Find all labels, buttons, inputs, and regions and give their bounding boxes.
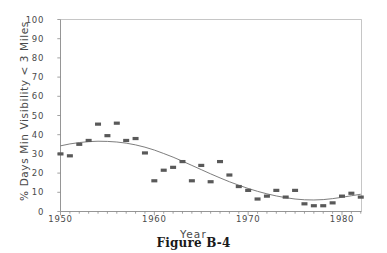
data-point-1980 [339, 195, 345, 198]
figure-b-4: % Days Min Visibility < 3 Miles 01020304… [0, 0, 387, 253]
trend-line [61, 141, 361, 200]
data-point-1971 [255, 197, 261, 200]
figure-caption: Figure B-4 [0, 236, 387, 250]
x-axis-tick-labels: 1950196019701980 [0, 214, 387, 228]
data-point-1975 [292, 189, 298, 192]
x-tick-1970: 1970 [236, 214, 260, 224]
data-point-1972 [264, 195, 270, 198]
data-point-1958 [133, 137, 139, 140]
data-point-1952 [76, 143, 82, 146]
data-point-1965 [198, 164, 204, 167]
data-point-1978 [320, 204, 326, 207]
data-point-1974 [283, 196, 289, 199]
data-point-1982 [358, 196, 364, 199]
data-point-1976 [301, 202, 307, 205]
data-point-1957 [123, 139, 129, 142]
data-point-1955 [104, 134, 110, 137]
data-point-1968 [226, 173, 232, 176]
data-point-1956 [114, 122, 120, 125]
data-markers [58, 122, 364, 208]
data-point-1969 [236, 185, 242, 188]
data-point-1959 [142, 151, 148, 154]
data-point-1979 [330, 201, 336, 204]
data-point-1962 [170, 166, 176, 169]
data-point-1951 [67, 154, 73, 157]
data-point-1960 [151, 179, 157, 182]
data-point-1966 [208, 180, 214, 183]
data-point-1954 [95, 123, 101, 126]
x-tick-1980: 1980 [330, 214, 354, 224]
data-point-1967 [217, 160, 223, 163]
x-tick-1950: 1950 [48, 214, 72, 224]
data-point-1961 [161, 169, 167, 172]
data-point-1950 [58, 152, 64, 155]
data-point-1963 [179, 160, 185, 163]
data-point-1977 [311, 204, 317, 207]
data-point-1981 [348, 192, 354, 195]
data-point-1973 [273, 189, 279, 192]
plot-axes [57, 20, 361, 216]
data-point-1953 [86, 139, 92, 142]
data-point-1964 [189, 179, 195, 182]
data-point-1970 [245, 189, 251, 192]
x-tick-1960: 1960 [142, 214, 166, 224]
